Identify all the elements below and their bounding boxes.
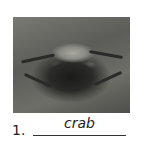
crab-photo — [13, 17, 130, 113]
crab-leg — [94, 71, 122, 86]
answer-text[interactable]: crab — [33, 115, 126, 131]
answer-line — [33, 135, 126, 136]
crab-leg — [21, 53, 55, 63]
crab-leg — [89, 50, 123, 59]
crab-leg — [24, 73, 52, 88]
item-number: 1. — [12, 122, 25, 138]
